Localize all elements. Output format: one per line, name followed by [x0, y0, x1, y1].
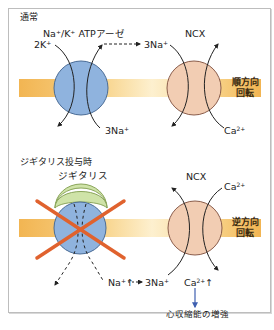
na-bottom-label: 3Na+	[105, 125, 129, 136]
na-3-label: 3Na+	[145, 277, 169, 288]
na-increase-label: Na+↑	[108, 277, 134, 288]
section-title-normal: 通常	[20, 12, 38, 23]
ncx-exchanger-reverse	[168, 201, 222, 255]
k-in-text: 2K	[34, 39, 46, 50]
ca-bottom-text: Ca	[224, 125, 236, 136]
k-in-charge: +	[46, 39, 51, 46]
reverse-rotation-line2: 回転	[228, 228, 262, 239]
ca-top-label: Ca2+	[224, 181, 245, 192]
pump-label: Na⁺/K⁺ ATPアーゼ	[43, 28, 125, 39]
ncx-label-normal: NCX	[185, 28, 205, 39]
ca-bottom-label: Ca2+	[224, 125, 245, 136]
outcome-label: 心収縮能の増強	[166, 309, 229, 320]
forward-rotation-line1: 順方向	[228, 77, 262, 88]
na-out-top-charge: +	[163, 39, 168, 46]
ca-bottom-charge: 2+	[236, 125, 245, 132]
reverse-rotation-label: 逆方向 回転	[228, 217, 262, 239]
section-title-digitalis: ジギタリス投与時	[20, 157, 92, 168]
ca-increase-up-icon: ↑	[205, 277, 213, 288]
na-bottom-text: 3Na	[105, 125, 124, 136]
na-out-top-label: 3Na+	[144, 39, 168, 50]
ca-increase-label: Ca2+↑	[184, 277, 213, 288]
ncx-label-digitalis: NCX	[186, 171, 206, 182]
ca-increase-text: Ca	[184, 277, 196, 288]
reverse-rotation-line1: 逆方向	[228, 217, 262, 228]
ncx-exchanger-normal	[167, 61, 221, 115]
na-3-charge: +	[164, 277, 169, 284]
ca-increase-charge: 2+	[196, 277, 205, 284]
ca-top-charge: 2+	[236, 181, 245, 188]
na-out-top-text: 3Na	[144, 39, 163, 50]
na-increase-up-icon: ↑	[126, 277, 134, 288]
na-3-text: 3Na	[145, 277, 164, 288]
na-k-atpase-pump	[54, 61, 108, 115]
digitalis-drug-label: ジギタリス	[58, 170, 108, 181]
forward-rotation-label: 順方向 回転	[228, 77, 262, 99]
na-bottom-charge: +	[124, 125, 129, 132]
na-increase-text: Na	[108, 277, 121, 288]
forward-rotation-line2: 回転	[228, 88, 262, 99]
k-in-label: 2K+	[34, 39, 51, 50]
ca-top-text: Ca	[224, 181, 236, 192]
